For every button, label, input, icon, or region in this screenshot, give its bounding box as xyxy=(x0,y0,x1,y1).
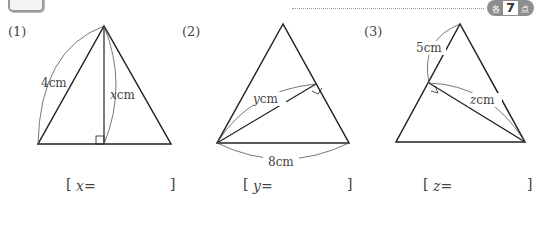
answer-box-3[interactable]: [ z= ] xyxy=(423,176,533,200)
figure-3-side-label: 5cm xyxy=(416,41,442,55)
bracket-close: ] xyxy=(527,176,532,192)
figure-1-unknown-label: xcm xyxy=(110,88,136,102)
bracket-open: [ xyxy=(423,176,428,192)
answer-box-2[interactable]: [ y= ] xyxy=(243,176,353,200)
bracket-close: ] xyxy=(170,176,175,192)
bracket-open: [ xyxy=(243,176,248,192)
figure-2-side-label: 8cm xyxy=(268,155,294,169)
answer-1-prefix: x= xyxy=(76,178,96,194)
figure-2-unknown-label: ycm xyxy=(252,92,279,106)
bracket-close: ] xyxy=(347,176,352,192)
answer-box-1[interactable]: [ x= ] xyxy=(66,176,176,200)
figure-2-triangle xyxy=(217,24,349,159)
figure-1-side-label: 4cm xyxy=(41,76,67,90)
answer-3-prefix: z= xyxy=(433,178,452,194)
answer-2-prefix: y= xyxy=(253,178,273,194)
figure-3-unknown-label: zcm xyxy=(469,93,495,107)
bracket-open: [ xyxy=(66,176,71,192)
